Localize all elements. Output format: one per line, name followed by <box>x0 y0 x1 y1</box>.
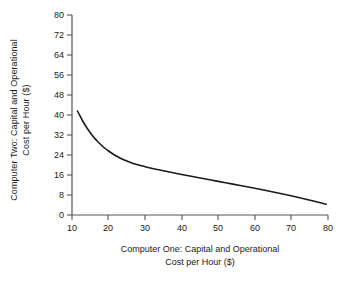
y-tick-label-32: 32 <box>42 131 64 140</box>
x-tick-label-70: 70 <box>279 224 303 233</box>
x-axis-title-line-2: Cost per Hour ($) <box>60 256 340 269</box>
y-axis-ticks <box>67 15 72 215</box>
x-axis-title: Computer One: Capital and Operational Co… <box>60 243 340 269</box>
y-tick-label-48: 48 <box>42 91 64 100</box>
chart-figure: Computer Two: Capital and Operational Co… <box>0 0 346 285</box>
x-tick-label-50: 50 <box>206 224 230 233</box>
y-tick-label-8: 8 <box>42 191 64 200</box>
y-tick-label-56: 56 <box>42 71 64 80</box>
x-tick-label-60: 60 <box>243 224 267 233</box>
x-tick-label-30: 30 <box>133 224 157 233</box>
x-tick-label-40: 40 <box>170 224 194 233</box>
y-tick-label-16: 16 <box>42 171 64 180</box>
x-axis-title-line-1: Computer One: Capital and Operational <box>60 243 340 256</box>
x-tick-label-10: 10 <box>60 224 84 233</box>
x-tick-label-20: 20 <box>96 224 120 233</box>
x-tick-label-80: 80 <box>316 224 340 233</box>
y-tick-label-80: 80 <box>42 11 64 20</box>
y-tick-label-24: 24 <box>42 151 64 160</box>
x-axis-ticks <box>72 215 328 220</box>
y-tick-label-72: 72 <box>42 31 64 40</box>
y-tick-label-40: 40 <box>42 111 64 120</box>
data-series-line <box>77 111 326 204</box>
y-tick-label-0: 0 <box>42 211 64 220</box>
y-tick-label-64: 64 <box>42 51 64 60</box>
